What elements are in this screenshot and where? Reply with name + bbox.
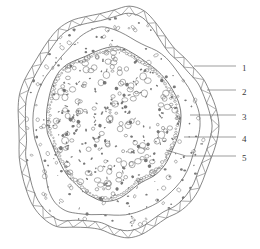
speck-dot <box>173 86 176 89</box>
speck-dot <box>165 75 168 78</box>
speck-bar <box>114 17 115 19</box>
cross-section-diagram: 12345 <box>0 0 260 249</box>
speck-dot <box>164 168 167 170</box>
speck-dot <box>48 53 51 55</box>
speck-dot <box>145 48 147 50</box>
speck-dot <box>180 168 183 170</box>
speck-dot <box>170 204 172 206</box>
speck-dot <box>190 152 192 154</box>
speck-dot <box>194 173 197 175</box>
speck-bar <box>200 143 203 144</box>
speck-dot <box>59 43 61 44</box>
speck-dot <box>172 75 174 76</box>
speck-dot <box>150 29 152 31</box>
speck-dot <box>183 169 186 171</box>
speck-dot <box>138 22 140 24</box>
speck-bar <box>127 196 129 197</box>
speck-dot <box>104 214 107 216</box>
speck-bar <box>61 58 62 60</box>
speck-dot <box>96 36 98 38</box>
core-cell-bar <box>95 168 97 170</box>
callout-label-1: 1 <box>242 63 247 73</box>
speck-dot <box>91 28 93 29</box>
speck-dot <box>47 186 49 187</box>
speck-dot <box>111 220 113 222</box>
core-cell-bar <box>150 88 152 90</box>
speck-dot <box>30 92 32 93</box>
speck-dot <box>194 154 196 156</box>
speck-dot <box>183 156 185 158</box>
speck-bar <box>55 57 56 58</box>
speck-dot <box>157 199 159 201</box>
speck-dot <box>42 75 44 76</box>
speck-dot <box>131 225 133 226</box>
core-cell-bar <box>94 171 96 173</box>
speck-dot <box>85 212 88 215</box>
speck-dot <box>157 189 159 190</box>
speck-dot <box>68 193 71 195</box>
speck-dot <box>160 58 162 60</box>
speck-dot <box>60 170 63 172</box>
speck-dot <box>184 99 187 101</box>
core-cell-bar <box>102 59 104 62</box>
speck-dot <box>154 181 155 182</box>
speck-dot <box>85 51 88 53</box>
speck-bar <box>78 218 79 220</box>
core-cell-bar <box>152 72 154 74</box>
speck-dot <box>181 179 184 181</box>
speck-dot <box>57 64 60 66</box>
core-cell-bar <box>86 111 87 113</box>
speck-dot <box>168 207 171 209</box>
speck-dot <box>77 42 78 43</box>
speck-dot <box>68 34 71 36</box>
core-cell-bar <box>89 78 91 79</box>
speck-dot <box>169 176 171 178</box>
speck-dot <box>128 213 130 215</box>
speck-dot <box>111 40 113 42</box>
callout-label-3: 3 <box>242 112 247 122</box>
callout-label-2: 2 <box>242 87 247 97</box>
core-cell-bar <box>155 141 157 143</box>
speck-dot <box>35 135 38 138</box>
speck-dot <box>85 48 87 50</box>
speck-dot <box>180 158 181 159</box>
speck-dot <box>129 206 130 207</box>
speck-dot <box>101 36 104 38</box>
speck-dot <box>131 216 132 217</box>
speck-dot <box>44 159 47 162</box>
callout-label-4: 4 <box>242 134 247 144</box>
speck-dot <box>126 202 129 205</box>
core-cell-bar <box>149 126 150 128</box>
speck-dot <box>57 175 58 176</box>
core-cell-bar <box>81 143 83 145</box>
speck-dot <box>189 123 191 125</box>
speck-dot <box>39 84 42 86</box>
figure-root: 12345 <box>0 0 260 249</box>
speck-dot <box>145 194 147 196</box>
callout-label-5: 5 <box>242 153 247 163</box>
speck-dot <box>108 19 111 21</box>
core-cell-bar <box>94 113 96 115</box>
